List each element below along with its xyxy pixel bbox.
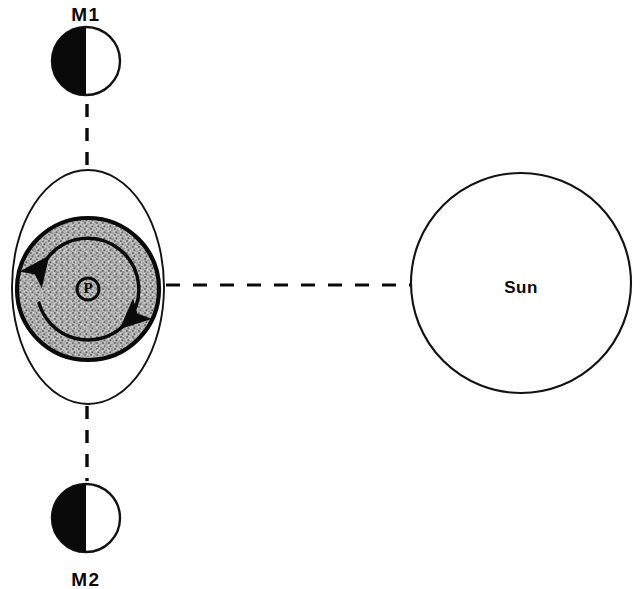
diagram-canvas: Sun P M1 M2 [0,0,640,589]
moon-lower-body: M2 [52,484,120,589]
moon-upper-body: M1 [52,4,120,95]
moon-upper-label: M1 [71,4,100,25]
moon-lower-label: M2 [71,569,100,589]
astronomy-diagram: Sun P M1 M2 [0,0,640,589]
planet-symbol-letter: P [83,280,92,296]
sun-label: Sun [504,278,538,297]
sun-body: Sun [411,173,631,393]
